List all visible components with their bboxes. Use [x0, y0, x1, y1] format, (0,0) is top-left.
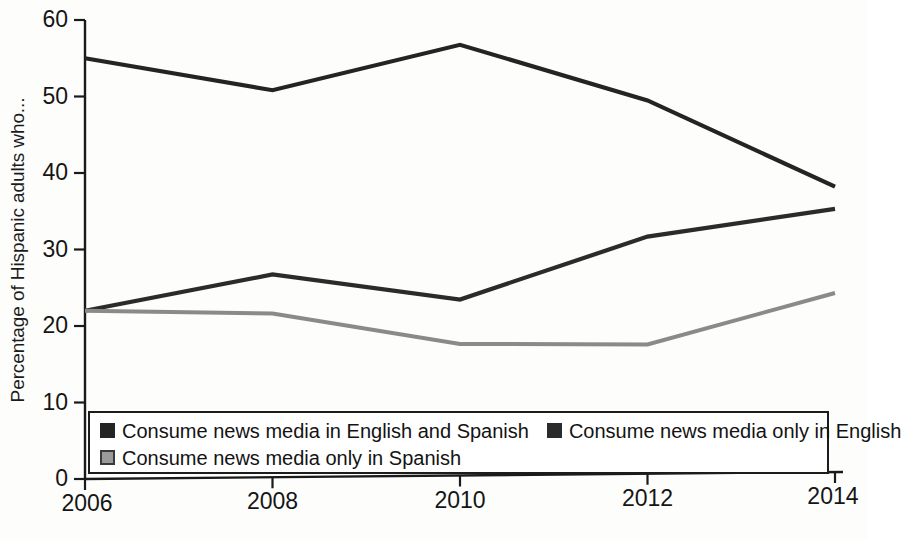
- series-line-0: [85, 45, 835, 187]
- legend-entry[interactable]: Consume news media in English and Spanis…: [100, 421, 529, 441]
- legend-entry[interactable]: Consume news media only in English: [547, 421, 901, 441]
- series-line-1: [85, 209, 835, 311]
- series-lines: [85, 45, 835, 345]
- legend-swatch-icon: [547, 423, 562, 438]
- legend-entry[interactable]: Consume news media only in Spanish: [100, 448, 461, 468]
- legend-row-secondary: Consume news media only in Spanish: [100, 444, 819, 471]
- legend-label: Consume news media only in Spanish: [122, 448, 461, 468]
- legend-swatch-icon: [100, 423, 115, 438]
- legend-swatch-icon: [100, 450, 115, 465]
- legend-label: Consume news media in English and Spanis…: [122, 421, 529, 441]
- chart-legend: Consume news media in English and Spanis…: [88, 411, 829, 474]
- legend-label: Consume news media only in English: [569, 421, 901, 441]
- legend-row-primary: Consume news media in English and Spanis…: [100, 417, 819, 444]
